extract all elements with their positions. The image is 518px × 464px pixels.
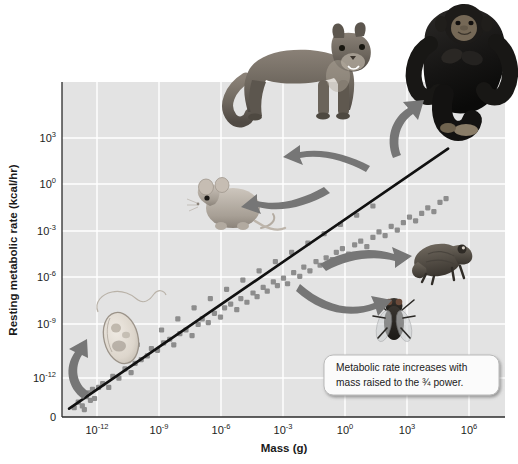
scatter-point	[228, 302, 233, 307]
scatter-point	[383, 233, 388, 238]
scatter-point	[191, 305, 196, 310]
scatter-point	[257, 268, 262, 273]
scatter-point	[291, 270, 296, 275]
callout-box: Metabolic rate increases with mass raise…	[324, 355, 499, 395]
scatter-point	[175, 316, 180, 321]
scatter-point	[334, 250, 339, 255]
scatter-point	[128, 370, 133, 375]
scatter-point	[222, 305, 227, 310]
scatter-point	[281, 276, 286, 281]
tick-label: 0	[50, 411, 56, 423]
scatter-point	[443, 196, 448, 201]
scatter-point	[352, 242, 357, 247]
scatter-point	[238, 296, 243, 301]
scatter-point	[234, 307, 239, 312]
scatter-point	[431, 209, 436, 214]
scatter-point	[285, 281, 290, 286]
scatter-point	[419, 211, 424, 216]
scatter-point	[370, 203, 375, 208]
scatter-point	[208, 296, 213, 301]
scatter-point	[224, 287, 229, 292]
scatter-point	[240, 277, 245, 282]
scatter-point	[273, 259, 278, 264]
scatter-point	[244, 300, 249, 305]
scatter-point	[340, 246, 345, 251]
scatter-point	[358, 239, 363, 244]
scatter-point	[395, 227, 400, 232]
scatter-point	[159, 327, 164, 332]
scatter-point	[324, 255, 329, 260]
scatter-point	[171, 342, 176, 347]
scatter-point	[265, 289, 270, 294]
y-axis-label: Resting metabolic rate (kcal/hr)	[7, 164, 19, 335]
scatter-point	[218, 314, 223, 319]
scatter-point	[370, 235, 375, 240]
scatter-point	[425, 205, 430, 210]
scatter-point	[106, 385, 111, 390]
scatter-point	[407, 215, 412, 220]
scatter-point	[401, 220, 406, 225]
scatter-point	[92, 396, 97, 401]
scatter-point	[189, 333, 194, 338]
x-axis-label: Mass (g)	[261, 442, 308, 454]
scatter-point	[206, 320, 211, 325]
scatter-point	[376, 229, 381, 234]
scatter-point	[297, 274, 302, 279]
scatter-point	[82, 407, 87, 412]
scatter-point	[301, 264, 306, 269]
callout-background	[324, 355, 499, 395]
scatter-point	[364, 244, 369, 249]
scatter-point	[307, 268, 312, 273]
scatter-point	[275, 283, 280, 288]
callout-line-2: mass raised to the ¾ power.	[336, 377, 463, 388]
scatter-point	[437, 200, 442, 205]
scatter-point	[254, 294, 259, 299]
callout-line-1: Metabolic rate increases with	[336, 362, 467, 373]
metabolic-scaling-figure: Metabolic rate increases with mass raise…	[0, 0, 518, 464]
scatter-point	[389, 224, 394, 229]
scatter-point	[413, 218, 418, 223]
